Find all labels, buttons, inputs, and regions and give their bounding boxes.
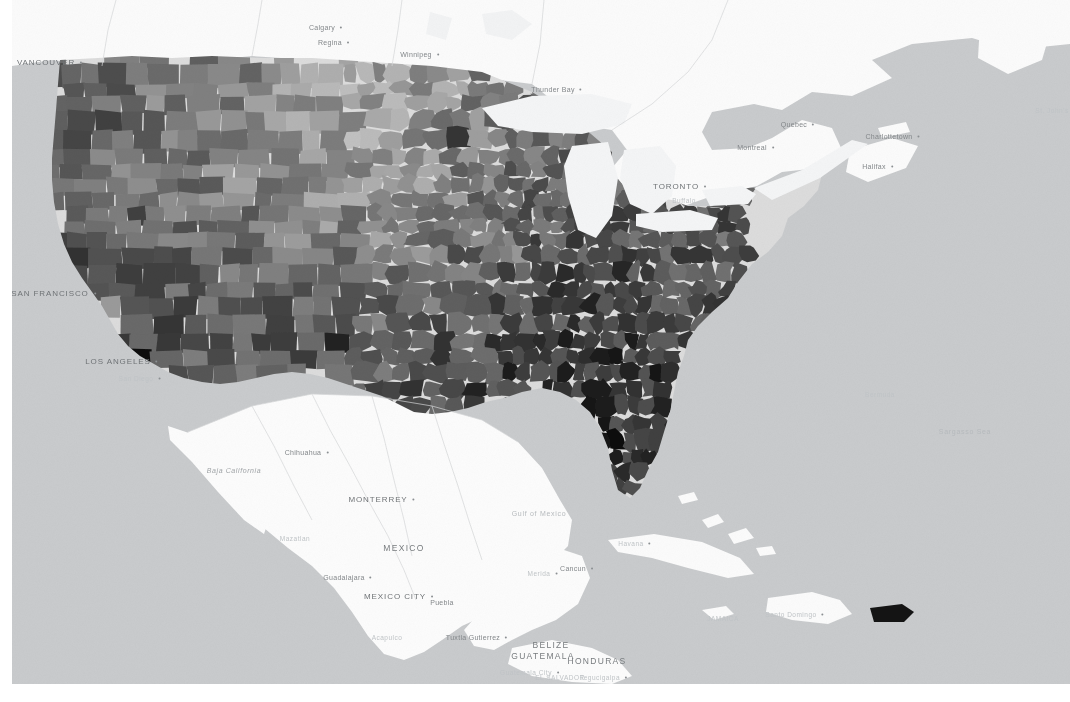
county-polygon[interactable]: [130, 163, 161, 181]
screenshot-root: VANCOUVERCalgaryReginaWinnipegThunder Ba…: [0, 0, 1070, 702]
county-polygon[interactable]: [196, 110, 222, 134]
county-polygon[interactable]: [174, 296, 198, 317]
county-polygon[interactable]: [358, 298, 379, 315]
county-polygon[interactable]: [341, 177, 363, 194]
map-viewport[interactable]: VANCOUVERCalgaryReginaWinnipegThunder Ba…: [12, 0, 1070, 684]
county-polygon[interactable]: [259, 205, 289, 223]
county-polygon[interactable]: [120, 95, 147, 114]
county-polygon[interactable]: [344, 64, 357, 83]
county-polygon[interactable]: [318, 264, 342, 288]
county-polygon[interactable]: [325, 332, 350, 353]
map-canvas[interactable]: [12, 0, 1070, 684]
county-polygon[interactable]: [59, 164, 83, 180]
county-polygon[interactable]: [298, 332, 327, 352]
county-polygon[interactable]: [363, 108, 392, 129]
county-polygon[interactable]: [218, 83, 249, 99]
county-polygon[interactable]: [213, 364, 238, 385]
county-polygon[interactable]: [191, 247, 222, 267]
county-polygon[interactable]: [280, 63, 301, 87]
county-polygon[interactable]: [232, 333, 253, 353]
county-polygon[interactable]: [399, 380, 424, 398]
county-polygon[interactable]: [514, 262, 531, 281]
county-polygon[interactable]: [67, 231, 87, 250]
county-polygon[interactable]: [451, 177, 471, 193]
